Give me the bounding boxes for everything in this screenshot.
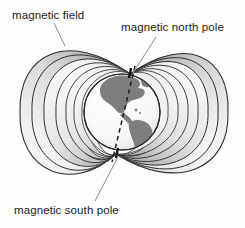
magnetic-field-diagram: [0, 0, 245, 228]
island-dot-1: [135, 109, 138, 112]
label-magnetic-south-pole: magnetic south pole: [14, 204, 119, 216]
label-magnetic-field: magnetic field: [12, 9, 84, 21]
leader-magnetic-field: [54, 23, 65, 46]
label-magnetic-north-pole: magnetic north pole: [121, 21, 224, 33]
figure-root: magnetic field magnetic north pole magne…: [0, 0, 245, 228]
island-dot-2: [139, 112, 141, 114]
